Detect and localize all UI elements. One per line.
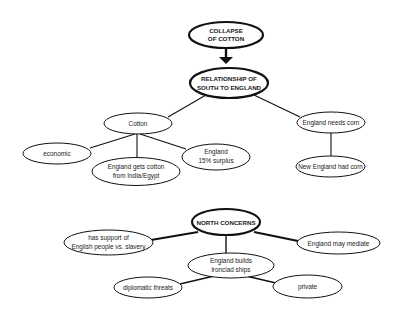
node-england-gets-cotton[interactable]: England gets cotton from India/Egypt — [92, 158, 180, 186]
node-label: England builds — [210, 257, 252, 265]
node-label: COLLAPSE — [209, 27, 243, 34]
node-cotton[interactable]: Cotton — [104, 113, 172, 134]
node-has-support[interactable]: has support of English people vs. slaver… — [64, 230, 153, 255]
edge-relationship-cotton — [168, 95, 206, 117]
node-label: ironclad ships — [211, 266, 250, 274]
node-label: RELATIONSHIP OF — [201, 75, 257, 82]
node-label: England gets cotton — [108, 163, 165, 171]
node-label: Cotton — [129, 120, 148, 127]
node-label: from India/Egypt — [113, 172, 160, 180]
node-north-concerns[interactable]: NORTH CONCERNS — [192, 209, 260, 235]
node-label: OF COTTON — [208, 35, 245, 42]
node-private[interactable]: private — [273, 275, 342, 298]
node-label: has support of — [88, 234, 129, 242]
node-label: diplomatic threats — [123, 284, 173, 292]
concept-map: COLLAPSE OF COTTON RELATIONSHIP OF SOUTH… — [0, 0, 402, 311]
node-label: 15% surplus — [198, 157, 233, 165]
node-label: economic — [43, 150, 71, 157]
node-label: England needs corn — [303, 119, 360, 127]
edge-ironclad-threats — [180, 276, 214, 284]
node-relationship-south-england[interactable]: RELATIONSHIP OF SOUTH TO ENGLAND — [190, 68, 268, 98]
edge-relationship-needs-corn — [254, 95, 300, 117]
node-label: private — [298, 283, 318, 291]
node-label: English people vs. slavery — [72, 243, 147, 251]
node-label: New England had corn — [298, 163, 363, 171]
node-label: SOUTH TO ENGLAND — [197, 84, 262, 91]
node-label: England — [204, 148, 228, 156]
node-england-needs-corn[interactable]: England needs corn — [297, 112, 365, 133]
arrow-down-icon — [219, 57, 233, 64]
node-new-england-had-corn[interactable]: New England had corn — [296, 156, 365, 177]
edge-north-support — [151, 232, 198, 240]
edge-north-mediate — [254, 232, 298, 241]
node-england-may-mediate[interactable]: England may mediate — [297, 232, 380, 254]
node-economic[interactable]: economic — [23, 143, 91, 164]
node-england-builds-ironclad[interactable]: England builds ironclad ships — [188, 253, 274, 278]
edge-cotton-surplus — [140, 134, 186, 149]
edge-cotton-economic — [90, 134, 135, 148]
node-label: England may mediate — [308, 240, 370, 248]
node-collapse-of-cotton[interactable]: COLLAPSE OF COTTON — [189, 22, 263, 48]
node-label: NORTH CONCERNS — [196, 219, 255, 226]
node-england-surplus[interactable]: England 15% surplus — [182, 144, 250, 170]
node-diplomatic-threats[interactable]: diplomatic threats — [114, 277, 182, 298]
